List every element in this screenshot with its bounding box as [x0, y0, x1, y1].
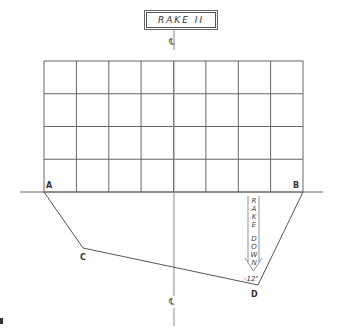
rake-label-letter: N [250, 259, 258, 267]
centerline-symbol-top: ℄ [169, 37, 175, 47]
down-word: DOWN [250, 235, 258, 267]
rake-label: RAKE DOWN [250, 197, 258, 267]
edge-mark [0, 318, 3, 324]
centerline-symbol-bottom: ℄ [169, 297, 175, 307]
rake-label-letter: O [250, 243, 258, 251]
rake-label-letter: D [250, 235, 258, 243]
rake-label-letter: K [250, 213, 258, 221]
rake-diagram [0, 0, 337, 336]
rake-label-letter: W [250, 251, 258, 259]
point-label-c: C [80, 253, 86, 262]
diagram-title: RAKE II [158, 15, 204, 25]
rake-label-letter: A [250, 205, 258, 213]
point-label-b: B [293, 181, 299, 190]
title-box: RAKE II [146, 12, 216, 28]
point-label-a: A [46, 181, 52, 190]
rake-label-letter: E [250, 221, 258, 229]
rake-label-letter: R [250, 197, 258, 205]
rake-word: RAKE [250, 197, 258, 229]
rake-dimension: -12" [244, 275, 259, 283]
point-label-d: D [251, 290, 258, 299]
